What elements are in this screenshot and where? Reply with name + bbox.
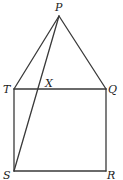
- geometry-diagram: P T X Q S R: [0, 0, 123, 180]
- label-p: P: [54, 1, 63, 14]
- label-x: X: [44, 77, 54, 90]
- label-r: R: [106, 169, 115, 180]
- label-s: S: [3, 169, 11, 180]
- segment-pq: [59, 16, 106, 89]
- label-q: Q: [108, 83, 117, 96]
- label-t: T: [3, 83, 12, 96]
- segment-ps: [14, 16, 59, 171]
